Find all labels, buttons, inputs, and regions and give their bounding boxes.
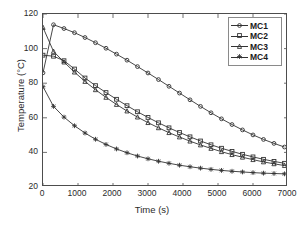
x-tick-label: 7000 [267, 189, 304, 197]
legend-label: MC4 [248, 52, 268, 62]
x-tick-label: 1000 [57, 189, 97, 197]
y-axis-label: Temperature (°C) [15, 16, 26, 176]
x-tick-label: 3000 [127, 189, 167, 197]
legend-label: MC2 [248, 31, 268, 41]
chart-figure: 20406080100120 0100020003000400050006000… [0, 0, 304, 228]
x-tick-label: 5000 [197, 189, 237, 197]
x-tick-label: 0 [22, 189, 62, 197]
x-tick-label: 6000 [232, 189, 272, 197]
x-tick-label: 2000 [92, 189, 132, 197]
legend-item-mc4[interactable]: MC4 [231, 52, 278, 62]
legend-item-mc3[interactable]: MC3 [231, 42, 278, 52]
legend-marker-icon [231, 31, 248, 41]
chart-legend: MC1MC2MC3MC4 [228, 17, 282, 66]
x-tick-label: 4000 [162, 189, 202, 197]
legend-marker-icon [231, 42, 248, 52]
x-axis-label: Time (s) [0, 204, 304, 215]
legend-marker-icon [231, 21, 248, 31]
legend-label: MC3 [248, 42, 268, 52]
legend-item-mc2[interactable]: MC2 [231, 31, 278, 41]
legend-item-mc1[interactable]: MC1 [231, 21, 278, 31]
series-mc2 [43, 53, 286, 165]
legend-marker-icon [231, 52, 248, 62]
series-mc4 [43, 84, 287, 176]
legend-label: MC1 [248, 21, 268, 31]
